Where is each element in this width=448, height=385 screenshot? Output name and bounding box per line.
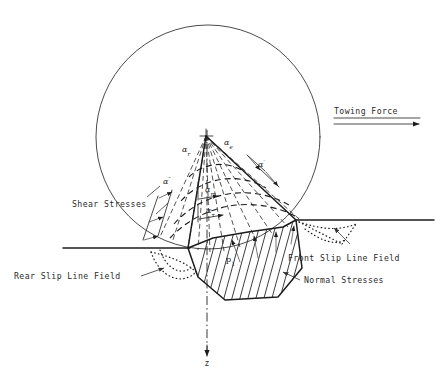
- towing-force-arrow: [334, 118, 420, 124]
- hatch-fill: [186, 210, 320, 320]
- alpha-e-subscript: e: [230, 144, 234, 150]
- front-slip-line-field: [299, 222, 356, 244]
- angle-label-alpha-prime: α ′: [258, 159, 266, 169]
- rear-slip-line-field: [151, 250, 196, 279]
- p1-symbol: p: [226, 255, 231, 264]
- alpha-r-subscript: r: [188, 151, 191, 157]
- label-front-slip-line-field: Front Slip Line Field: [288, 253, 400, 263]
- shear-stress-arrows-rear: [143, 190, 172, 240]
- label-rear-slip-line-field: Rear Slip Line Field: [14, 271, 121, 281]
- label-shear-stresses: Shear Stresses: [72, 199, 147, 209]
- alpha-m-subscript: m: [211, 191, 216, 197]
- figure-root: Towing Force Shear Stresses Rear Slip Li…: [0, 0, 448, 385]
- label-pressure-p1: p 1: [226, 255, 235, 267]
- label-axis-z: z: [205, 359, 210, 368]
- angle-label-alpha-double-prime: α ″: [163, 176, 172, 186]
- label-towing-force: Towing Force: [334, 106, 398, 116]
- slip-line-field-diagram: Towing Force Shear Stresses Rear Slip Li…: [0, 0, 448, 385]
- p1-subscript: 1: [232, 261, 236, 267]
- angle-label-alpha-r: α r: [182, 145, 191, 157]
- alpha-double-prime-mark: ″: [169, 176, 172, 182]
- label-normal-stresses: Normal Stresses: [304, 275, 384, 285]
- angle-label-alpha-e: α e: [224, 138, 234, 150]
- alpha-prime-mark: ′: [264, 159, 266, 165]
- normal-stress-body: [186, 210, 320, 320]
- hatch-lines: [186, 210, 320, 320]
